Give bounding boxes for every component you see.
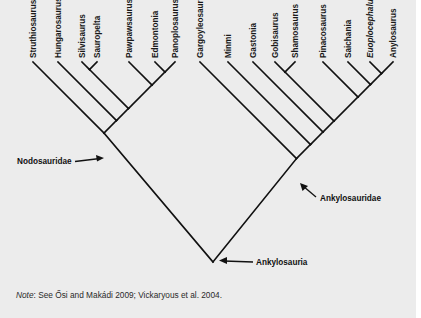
branch-shamosaurus (285, 62, 295, 72)
tip-label-pawpawsaurus: Pawpawsaurus (125, 0, 134, 58)
branch-silvisaurus-sauropelta (90, 70, 129, 109)
tip-label-sauropelta: Sauropelta (93, 15, 102, 58)
branch-gargoyleosaurus (200, 62, 297, 159)
branch-ankylosauridae-stem (213, 159, 297, 263)
ankylosauria-label: Ankylosauria (256, 258, 308, 267)
nodosauridae-label: Nodosauridae (17, 157, 72, 166)
branch-gobisaurus-shamosaurus (285, 72, 334, 121)
ankylosauria-annotation: Ankylosauria (219, 257, 308, 267)
branch-saichania-clade (358, 85, 371, 98)
branch-edmontonia (155, 62, 165, 72)
branch-sauropelta (90, 62, 98, 70)
tip-label-gargoyleosaurus: Gargoyleosaurus (196, 0, 205, 58)
ankylosauria-arrowhead (219, 257, 227, 264)
branch-gobisaurus (275, 62, 285, 72)
tip-label-gobisaurus: Gobisaurus (271, 12, 280, 58)
branch-euoplocephalus (370, 62, 382, 74)
tip-label-panoplosaurus: Panoplosaurus (171, 0, 180, 58)
note-text: : See Ősi and Makádi 2009; Vickaryous et… (34, 290, 222, 300)
tip-labels: StruthiosaurusHungarosaurusSilvisaurusSa… (29, 0, 398, 58)
branch-silvisaurus (82, 62, 90, 70)
figure-panel: StruthiosaurusHungarosaurusSilvisaurusSa… (0, 0, 416, 318)
tip-label-hungarosaurus: Hungarosaurus (54, 0, 63, 58)
cladogram: StruthiosaurusHungarosaurusSilvisaurusSa… (0, 0, 421, 318)
branch-saichania (348, 62, 371, 85)
branch-anylosaurus (382, 62, 394, 74)
branch-minmi-clade (297, 145, 311, 159)
note-prefix: Note (16, 290, 34, 300)
branch-euoplocephalus-anylosaurus (371, 74, 382, 85)
branches (33, 62, 393, 262)
ankylosauridae-label: Ankylosauridae (320, 194, 381, 203)
branch-pinacosaurus-clade (334, 97, 358, 121)
branch-edmontonia-panoplosaurus (152, 72, 165, 85)
branch-panoplosaurus (165, 62, 175, 72)
branch-pawpawsaurus (129, 62, 152, 85)
branch-gastonia-clade (311, 132, 324, 145)
tip-label-gastonia: Gastonia (249, 23, 258, 58)
ankylosauridae-annotation: Ankylosauridae (300, 183, 381, 203)
nodosauridae-annotation: Nodosauridae (17, 155, 104, 166)
tip-label-saichania: Saichania (344, 19, 353, 58)
nodosauridae-arrow (75, 159, 100, 162)
branch-hungarosaurus-clade (104, 121, 117, 134)
branch-panoplosaurinae (129, 85, 153, 109)
nodosauridae-arrowhead (96, 155, 104, 162)
figure-note: Note: See Ősi and Makádi 2009; Vickaryou… (16, 290, 222, 300)
branch-derived-ankylosaurids (323, 121, 334, 132)
tip-label-minmi: Minmi (224, 34, 233, 58)
tip-label-struthiosaurus: Struthiosaurus (29, 0, 38, 58)
branch-inner-nodosaurs (117, 109, 129, 121)
tip-label-edmontonia: Edmontonia (151, 10, 160, 58)
tip-label-pinacosaurus: Pinacosaurus (319, 4, 328, 58)
branch-nodosauridae-stem (104, 133, 213, 262)
tip-label-silvisaurus: Silvisaurus (78, 14, 87, 58)
tip-label-shamosaurus: Shamosaurus (291, 3, 300, 58)
ankylosauria-arrow (224, 261, 253, 262)
branch-hungarosaurus (58, 62, 117, 121)
tip-label-euoplocephalus: Euoplocephalus (366, 0, 375, 58)
tip-label-anylosaurus: Anylosaurus (389, 8, 398, 58)
